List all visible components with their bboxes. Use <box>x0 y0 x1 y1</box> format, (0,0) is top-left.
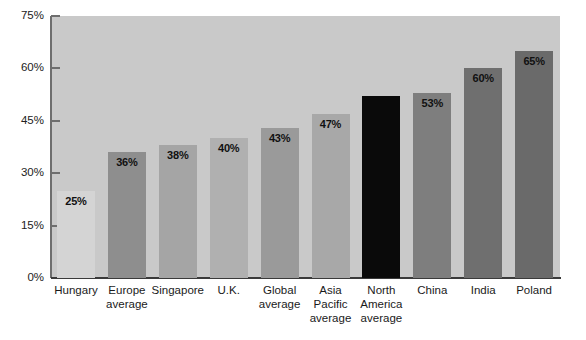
y-axis-tick-label: 15% <box>0 220 44 231</box>
category-label-line: average <box>304 311 358 325</box>
bar-slot: 36% <box>108 16 146 278</box>
y-axis-tick-label: 60% <box>0 62 44 73</box>
category-label-line: North <box>354 283 408 297</box>
bar <box>464 68 502 278</box>
bar-slot: 40% <box>210 16 248 278</box>
category-label-line: average <box>354 311 408 325</box>
bar-slot: 43% <box>261 16 299 278</box>
bar-value-label: 43% <box>261 132 299 144</box>
y-axis-tick-label: 0% <box>0 272 44 283</box>
bar <box>413 93 451 278</box>
bar-slot: 47% <box>312 16 350 278</box>
bar <box>261 128 299 278</box>
category-label: Poland <box>507 283 561 297</box>
category-label: AsiaPacificaverage <box>304 283 358 325</box>
category-label-line: China <box>405 283 459 297</box>
bar-value-label: 65% <box>515 55 553 67</box>
bar <box>108 152 146 278</box>
category-label: Europeaverage <box>100 283 154 311</box>
category-label-line: America <box>354 297 408 311</box>
category-label: Hungary <box>49 283 103 297</box>
category-label-line: Asia <box>304 283 358 297</box>
category-label-line: U.K. <box>202 283 256 297</box>
bar-value-label: 40% <box>210 142 248 154</box>
category-label: U.K. <box>202 283 256 297</box>
category-label: India <box>456 283 510 297</box>
bar-value-label: 36% <box>108 156 146 168</box>
bar-value-label: 38% <box>159 149 197 161</box>
y-axis-tick-label: 45% <box>0 115 44 126</box>
y-axis-tick-label: 75% <box>0 10 44 21</box>
bar-value-label: 47% <box>312 118 350 130</box>
category-label: NorthAmericaaverage <box>354 283 408 325</box>
bar-slot <box>362 16 400 278</box>
bar <box>515 51 553 278</box>
bar-value-label: 60% <box>464 72 502 84</box>
bar-chart: 0%15%30%45%60%75% 25%36%38%40%43%47%53%6… <box>0 0 586 340</box>
bars-layer: 25%36%38%40%43%47%53%60%65% <box>51 16 560 278</box>
category-label-line: Poland <box>507 283 561 297</box>
category-label-line: Europe <box>100 283 154 297</box>
category-label-line: average <box>100 297 154 311</box>
category-label: Singapore <box>151 283 205 297</box>
category-label-line: Hungary <box>49 283 103 297</box>
category-label-line: India <box>456 283 510 297</box>
bar <box>210 138 248 278</box>
category-label-line: Pacific <box>304 297 358 311</box>
bar-value-label: 53% <box>413 97 451 109</box>
bar-slot: 65% <box>515 16 553 278</box>
category-label-line: average <box>253 297 307 311</box>
y-axis-tick-label: 30% <box>0 167 44 178</box>
category-labels: HungaryEuropeaverageSingaporeU.K.Globala… <box>51 283 560 340</box>
bar-slot: 38% <box>159 16 197 278</box>
category-label: China <box>405 283 459 297</box>
bar-slot: 25% <box>57 16 95 278</box>
category-label: Globalaverage <box>253 283 307 311</box>
category-label-line: Singapore <box>151 283 205 297</box>
bar-slot: 60% <box>464 16 502 278</box>
bar <box>362 96 400 278</box>
category-label-line: Global <box>253 283 307 297</box>
bar-slot: 53% <box>413 16 451 278</box>
bar <box>312 114 350 278</box>
bar <box>159 145 197 278</box>
bar-value-label: 25% <box>57 195 95 207</box>
